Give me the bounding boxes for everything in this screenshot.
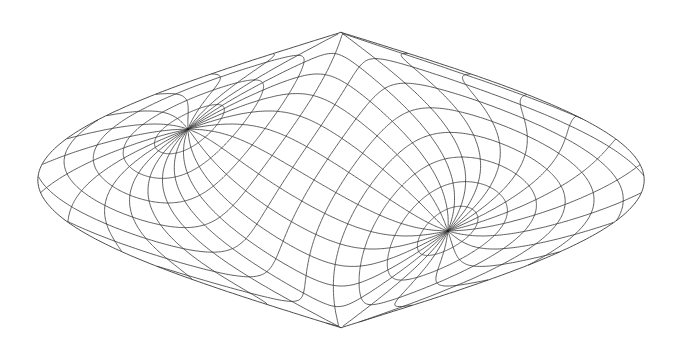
parallel-line	[158, 108, 594, 302]
parallel-line	[64, 34, 582, 228]
meridian-line	[188, 32, 466, 231]
meridian-line	[188, 124, 448, 231]
projection-outline	[38, 32, 644, 327]
meridian-line	[188, 129, 448, 231]
meridian-line	[188, 129, 448, 266]
meridian-line	[163, 129, 448, 328]
graticule-lines	[39, 32, 644, 327]
meridian-line	[41, 129, 640, 236]
meridian-line	[188, 53, 455, 231]
south-pole-point	[447, 230, 449, 232]
north-pole-point	[187, 128, 189, 130]
map-projection-figure	[0, 0, 677, 343]
meridian-line	[184, 129, 448, 286]
meridian-line	[188, 129, 448, 249]
